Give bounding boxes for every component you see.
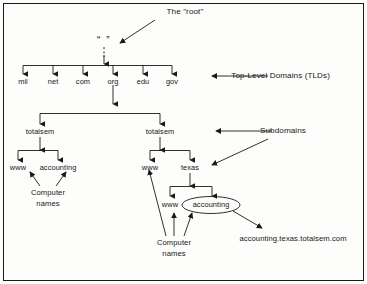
left-caption-leader-www	[30, 172, 40, 186]
fqdn-callout-arrow	[233, 211, 262, 228]
root-node-label: “ ”	[97, 36, 111, 45]
right-caption-line1: Computer	[157, 238, 191, 247]
tld-node-gov: gov	[166, 77, 178, 86]
left-caption-leader-accounting	[56, 172, 66, 186]
root-callout-arrow	[120, 20, 155, 43]
tld-node-edu: edu	[137, 77, 150, 86]
left-computer-names-caption: Computer names	[31, 188, 65, 209]
right-host-node-texas: texas	[181, 163, 199, 172]
left-caption-line2: names	[36, 199, 59, 208]
right-host-node-www: www	[142, 163, 158, 172]
left-caption-line1: Computer	[31, 188, 65, 197]
left-host-node-www: www	[10, 163, 26, 172]
subdomain-node-totalsem-right: totalsem	[146, 127, 175, 136]
texas-child-node-accounting: accounting	[193, 200, 230, 209]
right-caption-line2: names	[162, 249, 185, 258]
texas-child-node-www: www	[162, 200, 178, 209]
subdomain-annotation-label: Subdomains	[260, 126, 306, 135]
tld-node-mil: mil	[18, 77, 28, 86]
right-computer-names-caption: Computer names	[157, 238, 191, 259]
left-host-node-accounting: accounting	[40, 163, 77, 172]
root-callout-label: The "root"	[167, 7, 204, 16]
fqdn-example-label: accounting.texas.totalsem.com	[239, 234, 346, 243]
tld-node-net: net	[48, 77, 59, 86]
tld-node-com: com	[76, 77, 90, 86]
subdomain-annotation-leader-lower	[212, 139, 268, 165]
subdomain-node-totalsem-left: totalsem	[26, 127, 55, 136]
tld-node-org: org	[108, 77, 119, 86]
dns-hierarchy-diagram: The "root" “ ” mil net com org edu gov T…	[0, 0, 367, 284]
right-caption-leader-accounting	[184, 213, 192, 236]
tld-annotation-label: Top-Level Domains (TLDs)	[231, 71, 330, 80]
